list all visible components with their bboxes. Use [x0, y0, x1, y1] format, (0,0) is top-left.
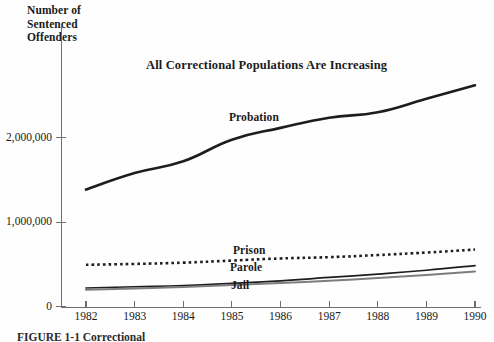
figure-page: Number of Sentenced Offenders All Correc…	[0, 0, 494, 342]
series-label-prison: Prison	[233, 244, 266, 256]
series-label-jail: Jail	[231, 279, 249, 291]
series-line-parole	[86, 266, 475, 288]
series-line-prison	[86, 250, 475, 265]
series-label-probation: Probation	[229, 111, 279, 123]
series-line-probation	[86, 85, 475, 189]
figure-caption: FIGURE 1-1 Correctional	[17, 331, 145, 342]
series-label-parole: Parole	[230, 261, 262, 273]
